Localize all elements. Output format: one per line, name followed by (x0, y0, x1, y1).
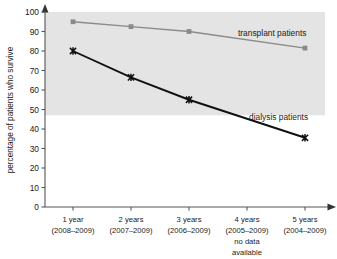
y-tick-label: 10 (30, 183, 40, 193)
y-tick-label: 40 (30, 124, 40, 134)
y-tick-label: 20 (30, 163, 40, 173)
data-point-marker (303, 46, 308, 51)
y-axis-title: percentage of patients who survive (6, 46, 15, 173)
x-axis-tick-labels: 1 year(2008–2009)2 years(2007–2009)3 yea… (51, 215, 327, 257)
x-tick-label-line: 4 years (235, 215, 260, 224)
y-tick-label: 60 (30, 85, 40, 95)
y-tick-label: 70 (30, 66, 40, 76)
y-axis-arrow-icon (42, 4, 49, 13)
y-tick-label: 0 (34, 202, 39, 212)
data-point-marker (187, 29, 192, 34)
x-tick-label-line: (2007–2009) (109, 226, 153, 235)
x-tick-label-line: 2 years (119, 215, 144, 224)
y-tick-label: 30 (30, 144, 40, 154)
x-tick-label-line: (2004–2009) (283, 226, 327, 235)
x-tick-label-line: available (232, 248, 262, 257)
series-label-transplant: transplant patients (238, 28, 306, 38)
x-tick-label-line: 5 years (293, 215, 318, 224)
chart-plot-area: 0102030405060708090100 1 year(2008–2009)… (0, 0, 337, 259)
data-point-marker (129, 24, 134, 29)
survival-rate-chart: 0102030405060708090100 1 year(2008–2009)… (0, 0, 337, 259)
data-point-marker (71, 19, 76, 24)
y-axis-tick-labels: 0102030405060708090100 (25, 7, 39, 212)
x-tick-label-line: no data (234, 237, 260, 246)
x-tick-label-line: (2005–2009) (225, 226, 269, 235)
y-tick-label: 80 (30, 46, 40, 56)
y-tick-label: 90 (30, 27, 40, 37)
y-tick-label: 100 (25, 7, 39, 17)
x-tick-label-line: 1 year (62, 215, 84, 224)
series-label-dialysis: dialysis patients (249, 112, 308, 122)
x-axis-arrow-icon (328, 204, 337, 211)
x-tick-label-line: (2006–2009) (167, 226, 211, 235)
x-tick-label-line: (2008–2009) (51, 226, 95, 235)
x-tick-label-line: 3 years (177, 215, 202, 224)
y-tick-label: 50 (30, 105, 40, 115)
